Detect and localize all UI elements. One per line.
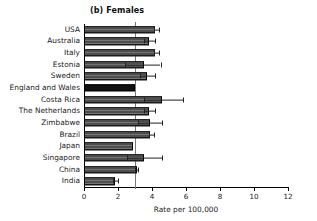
bar-row: Japan xyxy=(84,140,288,152)
x-tick-label: 6 xyxy=(184,192,189,201)
error-bar-cap-low xyxy=(144,39,145,44)
bar-england-and-wales xyxy=(84,84,135,91)
bar-row: India xyxy=(84,175,288,187)
x-tick xyxy=(220,187,221,191)
plot-area: USAAustraliaItalyEstoniaSwedenEngland an… xyxy=(84,24,288,187)
category-label-sweden: Sweden xyxy=(51,73,80,80)
error-bar-cap-high xyxy=(159,51,160,56)
bar-row: The Netherlands xyxy=(84,106,288,118)
x-tick-label: 8 xyxy=(218,192,223,201)
category-label-costa-rica: Costa Rica xyxy=(41,96,80,103)
category-label-china: China xyxy=(59,166,80,173)
bar-row: Australia xyxy=(84,36,288,48)
error-bar-cap-low xyxy=(140,74,141,79)
bar-row: Zimbabwe xyxy=(84,117,288,129)
x-tick xyxy=(84,187,85,191)
x-tick-label: 10 xyxy=(249,192,258,201)
bar-japan xyxy=(84,143,133,150)
error-bar-cap-high xyxy=(154,132,155,137)
category-label-australia: Australia xyxy=(47,38,80,45)
error-bar-line xyxy=(127,157,163,158)
x-tick xyxy=(186,187,187,191)
bar-australia xyxy=(84,38,149,45)
error-bar-cap-high xyxy=(155,74,156,79)
error-bar-cap-high xyxy=(159,27,160,32)
category-label-japan: Japan xyxy=(59,143,80,150)
error-bar-cap-high xyxy=(155,39,156,44)
category-label-brazil: Brazil xyxy=(59,131,80,138)
error-bar-cap-high xyxy=(161,62,162,67)
error-bar-cap-high xyxy=(155,109,156,114)
error-bar-line xyxy=(140,76,155,77)
error-bar-cap-low xyxy=(138,120,139,125)
error-bar-cap-high xyxy=(162,120,163,125)
x-tick xyxy=(254,187,255,191)
category-label-india: India xyxy=(62,177,80,184)
bar-row: USA xyxy=(84,24,288,36)
error-bar-cap-low xyxy=(135,167,136,172)
x-tick xyxy=(288,187,289,191)
error-bar-cap-low xyxy=(144,97,145,102)
bar-brazil xyxy=(84,131,150,138)
error-bar-cap-high xyxy=(183,97,184,102)
bar-row: China xyxy=(84,164,288,176)
x-tick xyxy=(118,187,119,191)
bar-row: Sweden xyxy=(84,71,288,83)
error-bar-cap-high xyxy=(118,179,119,184)
bar-row: Brazil xyxy=(84,129,288,141)
bar-row: England and Wales xyxy=(84,82,288,94)
error-bar-cap-low xyxy=(149,132,150,137)
error-bar-cap-low xyxy=(127,155,128,160)
category-label-england-and-wales: England and Wales xyxy=(10,84,80,91)
bar-italy xyxy=(84,49,155,56)
bar-the-netherlands xyxy=(84,108,149,115)
error-bar-cap-high xyxy=(162,155,163,160)
x-axis-label: Rate per 100,000 xyxy=(84,205,288,214)
error-bar-line xyxy=(144,99,183,100)
chart-container: (b) Females USAAustraliaItalyEstoniaSwed… xyxy=(0,0,317,221)
error-bar-line xyxy=(144,41,156,42)
category-label-the-netherlands: The Netherlands xyxy=(19,108,80,115)
x-tick xyxy=(152,187,153,191)
error-bar-cap-low xyxy=(154,27,155,32)
bar-sweden xyxy=(84,73,147,80)
bar-usa xyxy=(84,26,155,33)
category-label-italy: Italy xyxy=(64,49,80,56)
bar-row: Singapore xyxy=(84,152,288,164)
x-tick-label: 0 xyxy=(82,192,87,201)
error-bar-line xyxy=(144,111,156,112)
bar-china xyxy=(84,166,137,173)
x-tick-label: 2 xyxy=(116,192,121,201)
error-bar-cap-high xyxy=(138,167,139,172)
error-bar-line xyxy=(125,64,161,65)
bar-row: Italy xyxy=(84,47,288,59)
category-label-usa: USA xyxy=(65,26,80,33)
error-bar-line xyxy=(138,123,162,124)
category-label-singapore: Singapore xyxy=(43,154,80,161)
x-tick-label: 12 xyxy=(283,192,292,201)
error-bar-cap-low xyxy=(154,51,155,56)
category-label-zimbabwe: Zimbabwe xyxy=(41,119,80,126)
category-label-estonia: Estonia xyxy=(53,61,80,68)
error-bar-cap-low xyxy=(113,179,114,184)
error-bar-cap-low xyxy=(144,109,145,114)
x-tick-label: 4 xyxy=(150,192,155,201)
bar-india xyxy=(84,177,115,184)
bar-row: Estonia xyxy=(84,59,288,71)
error-bar-cap-low xyxy=(125,62,126,67)
bar-row: Costa Rica xyxy=(84,94,288,106)
chart-title: (b) Females xyxy=(90,6,144,15)
